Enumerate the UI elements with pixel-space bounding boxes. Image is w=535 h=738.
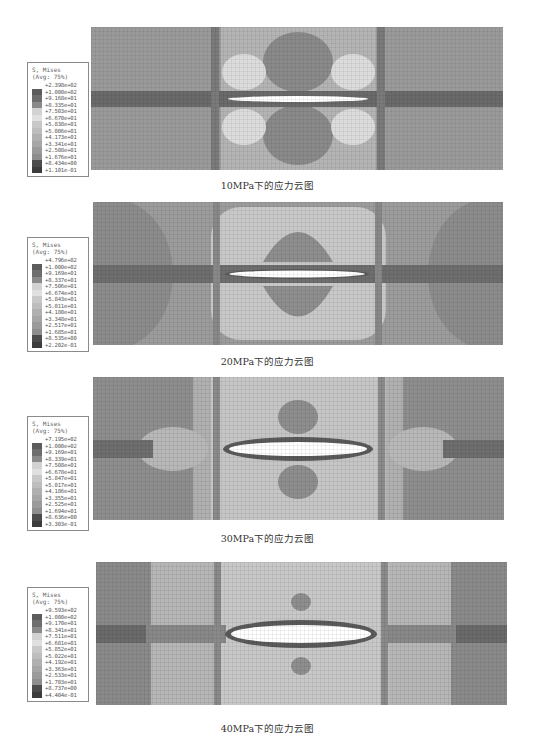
legend-title: S, Mises [32, 66, 85, 73]
contour-image [91, 27, 503, 170]
legend-subtitle: (Avg: 75%) [32, 73, 85, 80]
contour-image [93, 202, 503, 345]
legend-swatch [32, 692, 42, 699]
stress-contour-plot [93, 202, 503, 345]
legend-row: +3.303e-01 [32, 521, 85, 528]
legend-row: +1.101e-01 [32, 167, 85, 174]
stress-legend: S, Mises (Avg: 75%) +4.796e+02+1.000e+02… [27, 237, 89, 352]
stress-legend: S, Mises (Avg: 75%) +2.398e+02+1.000e+02… [27, 62, 89, 177]
legend-subtitle: (Avg: 75%) [32, 598, 85, 605]
legend-swatch [32, 167, 42, 174]
legend-rows: +9.593e+02+1.000e+02+9.170e+01+8.341e+01… [32, 607, 85, 698]
legend-title: S, Mises [32, 420, 85, 427]
legend-rows: +2.398e+02+1.000e+02+9.168e+01+8.335e+01… [32, 82, 85, 173]
legend-swatch [32, 342, 42, 349]
legend-swatch [32, 521, 42, 528]
legend-subtitle: (Avg: 75%) [32, 427, 85, 434]
legend-rows: +4.796e+02+1.000e+02+9.169e+01+8.337e+01… [32, 257, 85, 348]
stress-legend: S, Mises (Avg: 75%) +9.593e+02+1.000e+02… [27, 587, 89, 702]
stress-contour-plot [91, 27, 503, 170]
figure-caption: 30MPa下的应力云图 [0, 531, 535, 545]
legend-row: +4.404e-01 [32, 692, 85, 699]
legend-value: +2.202e-01 [45, 342, 77, 349]
stress-contour-plot [96, 562, 507, 705]
legend-value: +1.101e-01 [45, 167, 77, 174]
stress-legend: S, Mises (Avg: 75%) +7.195e+02+1.000e+02… [27, 416, 89, 531]
legend-value: +4.404e-01 [45, 692, 77, 699]
legend-subtitle: (Avg: 75%) [32, 248, 85, 255]
legend-title: S, Mises [32, 241, 85, 248]
figure-caption: 10MPa下的应力云图 [0, 178, 535, 192]
stress-contour-plot [93, 377, 504, 520]
figure-caption: 20MPa下的应力云图 [0, 354, 535, 368]
legend-value: +3.303e-01 [45, 521, 77, 528]
contour-image [93, 377, 504, 520]
legend-rows: +7.195e+02+1.000e+02+9.169e+01+8.339e+01… [32, 436, 85, 527]
legend-title: S, Mises [32, 591, 85, 598]
figure-caption: 40MPa下的应力云图 [0, 721, 535, 735]
contour-image [96, 562, 507, 705]
legend-row: +2.202e-01 [32, 342, 85, 349]
